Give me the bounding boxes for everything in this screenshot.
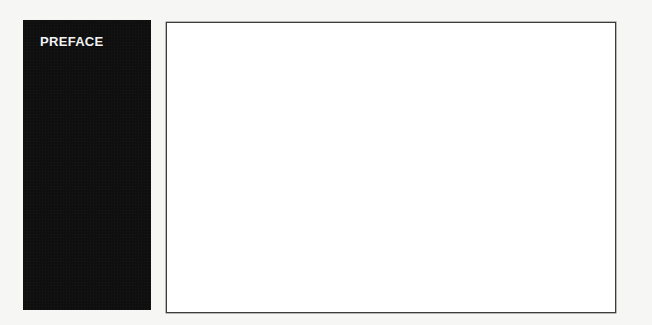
content-frame	[166, 22, 616, 313]
preface-sidebar-panel: PREFACE	[23, 20, 151, 310]
section-heading: PREFACE	[40, 34, 104, 49]
